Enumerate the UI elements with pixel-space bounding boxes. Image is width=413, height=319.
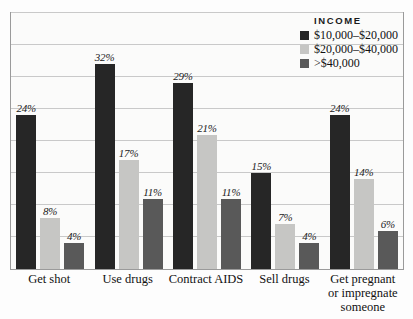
bar-value-label: 4%	[302, 230, 316, 242]
bar-value-label: 14%	[354, 166, 374, 178]
x-axis-label-line: Get pregnant	[324, 272, 402, 286]
bar-value-label: 32%	[95, 51, 115, 63]
bar-value-label: 29%	[173, 70, 193, 82]
x-axis-label-line: Sell drugs	[245, 272, 323, 286]
bar[interactable]	[221, 199, 241, 269]
legend-item[interactable]: $10,000–$20,000	[300, 28, 404, 42]
x-axis-label-line: Contract AIDS	[167, 272, 245, 286]
legend-swatch	[300, 59, 309, 68]
x-axis-label-line: Get shot	[10, 272, 88, 286]
bar-item[interactable]: 7%	[275, 13, 295, 269]
bar-value-label: 17%	[119, 147, 139, 159]
x-axis-label: Sell drugs	[245, 272, 323, 286]
bar-item[interactable]: 24%	[16, 13, 36, 269]
legend-label: $10,000–$20,000	[314, 28, 398, 43]
legend-item[interactable]: $20,000–$40,000	[300, 42, 404, 56]
bar-item[interactable]: 21%	[197, 13, 217, 269]
bar-value-label: 11%	[222, 186, 241, 198]
legend: INCOME $10,000–$20,000$20,000–$40,000>$4…	[300, 15, 404, 70]
legend-swatch	[300, 31, 309, 40]
bar[interactable]	[330, 115, 350, 269]
bar-value-label: 6%	[381, 218, 395, 230]
bar[interactable]	[299, 243, 319, 269]
bar[interactable]	[119, 160, 139, 269]
bar-group: 24%8%4%	[16, 13, 84, 269]
bar-item[interactable]: 11%	[143, 13, 163, 269]
x-axis-label: Use drugs	[88, 272, 166, 286]
bar-value-label: 24%	[16, 102, 36, 114]
bar-value-label: 8%	[43, 205, 57, 217]
chart-figure: 24%8%4%32%17%11%29%21%11%15%7%4%24%14%6%…	[0, 0, 413, 319]
bar[interactable]	[173, 83, 193, 269]
bar-item[interactable]: 29%	[173, 13, 193, 269]
legend-item[interactable]: >$40,000	[300, 56, 404, 70]
legend-label: >$40,000	[314, 56, 360, 71]
x-axis-label-line: or impregnate	[324, 286, 402, 300]
bar-group: 32%17%11%	[95, 13, 163, 269]
legend-swatch	[300, 45, 309, 54]
bar-value-label: 4%	[67, 230, 81, 242]
bar[interactable]	[378, 231, 398, 269]
bar-item[interactable]: 15%	[251, 13, 271, 269]
bar[interactable]	[143, 199, 163, 269]
x-axis-label: Contract AIDS	[167, 272, 245, 286]
bar-item[interactable]: 32%	[95, 13, 115, 269]
bar[interactable]	[16, 115, 36, 269]
x-axis-label-line: Use drugs	[88, 272, 166, 286]
legend-label: $20,000–$40,000	[314, 42, 398, 57]
bar[interactable]	[251, 173, 271, 269]
bar[interactable]	[95, 64, 115, 269]
bar-value-label: 24%	[330, 102, 350, 114]
bar[interactable]	[64, 243, 84, 269]
bar-value-label: 11%	[143, 186, 162, 198]
bar[interactable]	[40, 218, 60, 269]
bar-item[interactable]: 11%	[221, 13, 241, 269]
bar-value-label: 21%	[197, 122, 217, 134]
bar[interactable]	[197, 135, 217, 269]
bar-value-label: 7%	[278, 211, 292, 223]
x-axis-label: Get pregnantor impregnatesomeone	[324, 272, 402, 314]
bar-value-label: 15%	[252, 160, 272, 172]
bar[interactable]	[354, 179, 374, 269]
legend-title: INCOME	[300, 15, 404, 26]
legend-items: $10,000–$20,000$20,000–$40,000>$40,000	[300, 28, 404, 70]
bar[interactable]	[275, 224, 295, 269]
x-axis-label: Get shot	[10, 272, 88, 286]
bar-item[interactable]: 4%	[64, 13, 84, 269]
bar-item[interactable]: 8%	[40, 13, 60, 269]
bar-group: 29%21%11%	[173, 13, 241, 269]
bar-item[interactable]: 17%	[119, 13, 139, 269]
x-axis-label-line: someone	[324, 300, 402, 314]
